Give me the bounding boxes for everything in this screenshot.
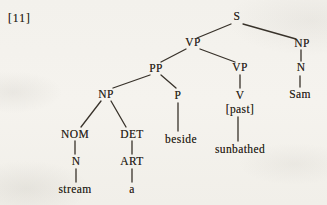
edge-pp-np xyxy=(113,75,150,88)
tree-leaf-sam: Sam xyxy=(289,89,311,101)
tree-leaf-beside: beside xyxy=(165,134,197,146)
tree-node-vp-main: VP xyxy=(185,37,201,49)
edge-s-np xyxy=(243,24,296,39)
tree-leaf-sunbathed: sunbathed xyxy=(215,144,265,156)
tree-edges xyxy=(0,0,327,205)
edge-vp-vp xyxy=(200,49,235,62)
tree-node-np-object: NP xyxy=(98,89,114,101)
tree-node-v: V xyxy=(236,90,245,102)
edge-pp-p xyxy=(161,75,176,88)
tree-node-nom: NOM xyxy=(61,129,89,141)
tree-node-s: S xyxy=(234,11,241,23)
tree-node-pp: PP xyxy=(149,63,163,75)
scanned-book-page: [11] S VP NP PP VP N NP P V Sam [past] N… xyxy=(0,0,327,205)
tree-node-n-object: N xyxy=(72,156,81,168)
tree-node-det: DET xyxy=(120,129,144,141)
tree-leaf-stream: stream xyxy=(58,184,91,196)
tree-node-past: [past] xyxy=(226,104,255,116)
tree-node-p: P xyxy=(175,90,182,102)
edge-s-vp xyxy=(197,24,231,38)
tree-node-n-subject: N xyxy=(297,62,306,74)
edge-np-nom xyxy=(81,101,101,127)
tree-node-vp-inner: VP xyxy=(232,62,248,74)
edge-np-det xyxy=(111,101,126,127)
tree-node-art: ART xyxy=(120,156,144,168)
edge-vp-pp xyxy=(161,49,186,62)
tree-node-np-subject: NP xyxy=(294,38,310,50)
tree-leaf-a: a xyxy=(129,184,135,196)
